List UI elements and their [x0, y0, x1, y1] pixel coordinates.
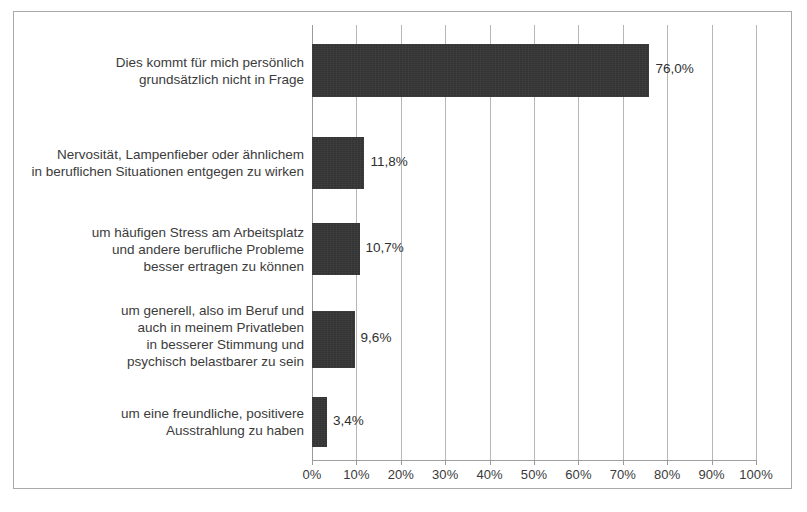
bar[interactable]: [312, 44, 649, 97]
bar[interactable]: [312, 397, 327, 447]
tickmark-70: [623, 460, 624, 465]
tickmark-0: [312, 460, 313, 465]
category-label: um eine freundliche, positivere Ausstrah…: [0, 405, 304, 439]
x-tick-label: 100%: [726, 467, 786, 482]
bar-value-label: 11,8%: [370, 154, 407, 169]
category-label: Dies kommt für mich persönlich grundsätz…: [0, 54, 304, 88]
chart-frame: Dies kommt für mich persönlich grundsätz…: [13, 11, 792, 489]
tickmark-50: [534, 460, 535, 465]
bar-value-label: 10,7%: [366, 240, 404, 255]
tickmark-80: [667, 460, 668, 465]
tickmark-30: [445, 460, 446, 465]
bar-row: Nervosität, Lampenfieber oder ähnlichem …: [14, 122, 791, 207]
category-label: um generell, also im Beruf und auch in m…: [0, 302, 304, 370]
bar-row: um häufigen Stress am Arbeitsplatz und a…: [14, 208, 791, 293]
tickmark-20: [401, 460, 402, 465]
tickmark-40: [490, 460, 491, 465]
bar-row: um generell, also im Beruf und auch in m…: [14, 294, 791, 379]
bar[interactable]: [312, 311, 355, 368]
tickmark-90: [712, 460, 713, 465]
bar-row: um eine freundliche, positivere Ausstrah…: [14, 380, 791, 460]
tickmark-10: [356, 460, 357, 465]
bar[interactable]: [312, 223, 360, 275]
bar-value-label: 3,4%: [333, 413, 364, 428]
bar[interactable]: [312, 137, 364, 189]
tickmark-100: [756, 460, 757, 465]
category-label: um häufigen Stress am Arbeitsplatz und a…: [0, 224, 304, 275]
bar-value-label: 76,0%: [655, 61, 693, 76]
bar-row: Dies kommt für mich persönlich grundsätz…: [14, 34, 791, 119]
category-label: Nervosität, Lampenfieber oder ähnlichem …: [0, 146, 304, 180]
bar-value-label: 9,6%: [361, 330, 392, 345]
tickmark-60: [578, 460, 579, 465]
